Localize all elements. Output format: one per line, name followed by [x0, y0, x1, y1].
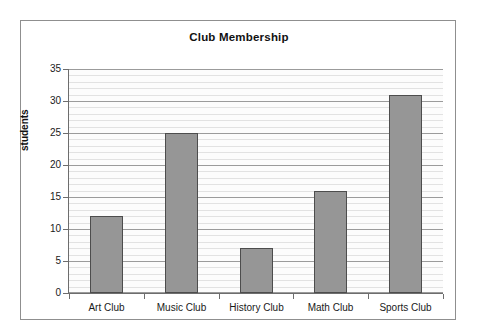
- y-axis-tick: [63, 165, 68, 166]
- x-axis-tick: [144, 294, 145, 299]
- minor-gridline: [69, 82, 443, 83]
- y-axis-tick: [63, 229, 68, 230]
- minor-gridline: [69, 210, 443, 211]
- y-axis-line: [68, 69, 69, 294]
- minor-gridline: [69, 75, 443, 76]
- minor-gridline: [69, 127, 443, 128]
- x-axis-category-label: Art Club: [69, 302, 144, 313]
- minor-gridline: [69, 223, 443, 224]
- x-axis-line: [68, 293, 443, 294]
- minor-gridline: [69, 242, 443, 243]
- chart-title: Club Membership: [21, 31, 457, 43]
- minor-gridline: [69, 216, 443, 217]
- y-axis-tick-label: 5: [23, 255, 61, 266]
- major-gridline: [69, 229, 443, 230]
- x-axis-category-label: Music Club: [144, 302, 219, 313]
- plot-area: [69, 69, 443, 293]
- minor-gridline: [69, 235, 443, 236]
- y-axis-tick: [63, 197, 68, 198]
- minor-gridline: [69, 184, 443, 185]
- minor-gridline: [69, 120, 443, 121]
- x-axis-category-label: History Club: [219, 302, 294, 313]
- major-gridline: [69, 133, 443, 134]
- minor-gridline: [69, 139, 443, 140]
- minor-gridline: [69, 88, 443, 89]
- y-axis-tick-label: 0: [23, 287, 61, 298]
- bar: [165, 133, 198, 293]
- y-axis-tick-label: 35: [23, 63, 61, 74]
- y-axis-tick-label: 25: [23, 127, 61, 138]
- y-axis-tick: [63, 293, 68, 294]
- bar: [90, 216, 123, 293]
- minor-gridline: [69, 146, 443, 147]
- minor-gridline: [69, 203, 443, 204]
- minor-gridline: [69, 114, 443, 115]
- y-axis-tick: [63, 261, 68, 262]
- y-axis-tick: [63, 69, 68, 70]
- x-axis-tick: [293, 294, 294, 299]
- major-gridline: [69, 197, 443, 198]
- bar: [240, 248, 273, 293]
- bar: [389, 95, 422, 293]
- minor-gridline: [69, 95, 443, 96]
- x-axis-category-label: Sports Club: [368, 302, 443, 313]
- x-axis-tick: [443, 294, 444, 299]
- x-axis-category-label: Math Club: [293, 302, 368, 313]
- y-axis-tick: [63, 101, 68, 102]
- y-axis-tick-label: 30: [23, 95, 61, 106]
- minor-gridline: [69, 178, 443, 179]
- x-axis-tick: [368, 294, 369, 299]
- x-axis-tick: [219, 294, 220, 299]
- minor-gridline: [69, 191, 443, 192]
- y-axis-tick: [63, 133, 68, 134]
- bar: [314, 191, 347, 293]
- chart-frame: Club Membership students 05101520253035 …: [20, 20, 456, 320]
- major-gridline: [69, 165, 443, 166]
- minor-gridline: [69, 171, 443, 172]
- y-axis-tick-label: 15: [23, 191, 61, 202]
- x-axis-tick: [69, 294, 70, 299]
- y-axis-tick-label: 10: [23, 223, 61, 234]
- minor-gridline: [69, 159, 443, 160]
- major-gridline: [69, 101, 443, 102]
- minor-gridline: [69, 152, 443, 153]
- y-axis-tick-label: 20: [23, 159, 61, 170]
- minor-gridline: [69, 107, 443, 108]
- major-gridline: [69, 69, 443, 70]
- chart-figure: Club Membership students 05101520253035 …: [0, 0, 478, 336]
